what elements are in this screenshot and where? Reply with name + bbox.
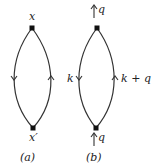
vertex-bottom-b xyxy=(94,126,99,131)
vertex-top-b xyxy=(95,26,100,31)
vertex-label-x: x xyxy=(29,11,35,22)
vertex-top-a xyxy=(30,26,35,31)
caption-a: (a) xyxy=(20,152,35,163)
vertex-bottom-a xyxy=(31,126,36,131)
vertex-label-x-prime: x′ xyxy=(29,132,38,143)
line-label-k-plus-q: k + q xyxy=(121,73,151,84)
up-arrow-icon xyxy=(112,76,118,80)
momentum-label-top-q: q xyxy=(98,4,105,15)
momentum-label-bottom-q: q xyxy=(98,132,105,143)
diagram-b-arrows xyxy=(76,76,118,80)
line-label-k: k xyxy=(67,73,74,84)
diagram-a-arrows xyxy=(11,76,54,80)
caption-b: (b) xyxy=(86,152,102,163)
diagram-a-loop xyxy=(14,28,51,128)
diagram-b-loop xyxy=(79,28,114,128)
